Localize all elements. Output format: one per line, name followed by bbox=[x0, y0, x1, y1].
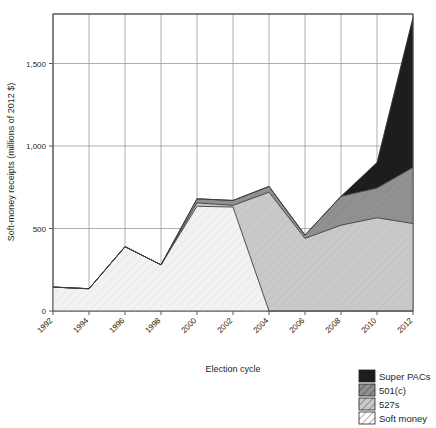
stacked-area-chart: 05001,0001,500 1992199419961998200020022… bbox=[0, 0, 436, 428]
x-tick-label: 2010 bbox=[359, 316, 378, 335]
y-tick-label: 500 bbox=[33, 225, 47, 234]
legend-label-501c: 501(c) bbox=[379, 385, 406, 396]
legend-swatch-527s bbox=[359, 398, 375, 410]
y-tick-label: 1,500 bbox=[26, 60, 47, 69]
x-tick-label: 1996 bbox=[107, 316, 126, 335]
legend-swatch-super-pacs bbox=[359, 370, 375, 382]
x-tick-label: 2000 bbox=[179, 316, 198, 335]
x-tick-label: 2002 bbox=[215, 316, 234, 335]
x-tick-label: 1992 bbox=[35, 316, 54, 335]
y-axis-title: Soft-money receipts (millions of 2012 $) bbox=[6, 83, 16, 242]
x-axis-ticks: 1992199419961998200020022004200620082010… bbox=[35, 311, 414, 335]
legend-label-soft-money: Soft money bbox=[379, 413, 427, 424]
chart-legend: Super PACs501(c)527sSoft money bbox=[359, 370, 431, 424]
legend-label-527s: 527s bbox=[379, 399, 400, 410]
legend-label-super-pacs: Super PACs bbox=[379, 371, 431, 382]
x-tick-label: 1994 bbox=[71, 316, 90, 335]
x-axis-title: Election cycle bbox=[205, 364, 260, 374]
y-axis-ticks: 05001,0001,500 bbox=[26, 60, 53, 317]
chart-figure: 05001,0001,500 1992199419961998200020022… bbox=[0, 0, 436, 428]
x-tick-label: 2004 bbox=[251, 316, 270, 335]
legend-swatch-501c bbox=[359, 384, 375, 396]
y-tick-label: 0 bbox=[42, 307, 47, 316]
legend-swatch-soft-money bbox=[359, 412, 375, 424]
x-tick-label: 2012 bbox=[395, 316, 414, 335]
x-tick-label: 2006 bbox=[287, 316, 306, 335]
x-tick-label: 1998 bbox=[143, 316, 162, 335]
y-tick-label: 1,000 bbox=[26, 142, 47, 151]
x-tick-label: 2008 bbox=[323, 316, 342, 335]
